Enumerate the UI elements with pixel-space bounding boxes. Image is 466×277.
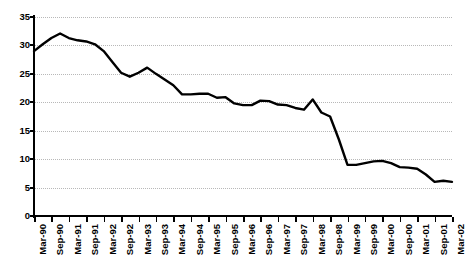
- x-axis-tick-label: Sep-99: [369, 224, 379, 255]
- y-axis-tick-label: 15: [19, 126, 30, 136]
- x-axis-tick-label: Mar-90: [38, 224, 48, 255]
- x-axis-tick-label: Mar-95: [212, 224, 222, 255]
- x-axis-tick-label: Mar-00: [386, 224, 396, 255]
- x-axis-tick: [139, 217, 141, 222]
- x-axis-tick-label: Mar-97: [282, 224, 292, 255]
- x-axis-tick: [104, 217, 106, 222]
- x-axis-tick: [191, 217, 193, 222]
- x-axis-tick-label: Mar-91: [73, 224, 83, 255]
- x-axis-tick: [34, 217, 36, 222]
- x-axis-tick-label: Sep-95: [230, 224, 240, 255]
- x-axis-tick: [278, 217, 280, 222]
- x-axis-tick: [69, 217, 71, 222]
- y-axis-tick-label: 0: [25, 211, 30, 221]
- x-axis-tick: [382, 217, 384, 222]
- x-axis-tick-label: Sep-94: [195, 224, 205, 255]
- x-axis-tick: [365, 217, 367, 222]
- x-axis-tick-label: Mar-94: [177, 224, 187, 255]
- x-axis-ticks: [34, 217, 452, 223]
- y-axis-tick-label: 20: [19, 98, 30, 108]
- y-axis-labels: 05101520253035: [0, 17, 30, 216]
- x-axis-tick: [348, 217, 350, 222]
- x-axis-tick-label: Mar-02: [456, 224, 466, 255]
- x-axis-tick: [121, 217, 123, 222]
- x-axis-tick: [417, 217, 419, 222]
- x-axis-tick: [260, 217, 262, 222]
- x-axis-tick: [243, 217, 245, 222]
- x-axis-tick: [400, 217, 402, 222]
- x-axis-tick: [173, 217, 175, 222]
- x-axis-tick: [208, 217, 210, 222]
- x-axis-tick: [452, 217, 454, 222]
- x-axis-tick-label: Sep-96: [264, 224, 274, 255]
- x-axis-tick-label: Mar-99: [352, 224, 362, 255]
- y-axis-tick-label: 10: [19, 154, 30, 164]
- x-axis-tick: [330, 217, 332, 222]
- y-axis-tick-label: 30: [19, 41, 30, 51]
- x-axis-tick: [156, 217, 158, 222]
- x-axis-tick-label: Sep-91: [90, 224, 100, 255]
- y-axis-tick-label: 25: [19, 69, 30, 79]
- x-axis-tick-label: Mar-92: [108, 224, 118, 255]
- x-axis-tick-label: Mar-96: [247, 224, 257, 255]
- x-axis-tick: [226, 217, 228, 222]
- x-axis-tick-label: Sep-90: [55, 224, 65, 255]
- x-axis-tick-label: Sep-93: [160, 224, 170, 255]
- x-axis-tick-label: Sep-01: [439, 224, 449, 255]
- y-axis-tick-label: 35: [19, 12, 30, 22]
- x-axis-tick-label: Sep-92: [125, 224, 135, 255]
- x-axis-tick-label: Mar-98: [317, 224, 327, 255]
- x-axis-tick: [86, 217, 88, 222]
- x-axis-tick: [51, 217, 53, 222]
- plot-area: [34, 17, 452, 216]
- x-axis-tick-label: Sep-00: [404, 224, 414, 255]
- x-axis-tick: [435, 217, 437, 222]
- x-axis-tick-label: Mar-93: [143, 224, 153, 255]
- y-axis-tick-label: 5: [25, 183, 30, 193]
- x-axis-tick: [295, 217, 297, 222]
- x-axis-tick-label: Mar-01: [421, 224, 431, 255]
- x-axis-labels: Mar-90Sep-90Mar-91Sep-91Mar-92Sep-92Mar-…: [34, 224, 452, 277]
- x-axis-tick: [313, 217, 315, 222]
- x-axis-tick-label: Sep-98: [334, 224, 344, 255]
- y-axis-line: [33, 15, 35, 218]
- x-axis-tick-label: Sep-97: [299, 224, 309, 255]
- data-series-line: [34, 17, 452, 216]
